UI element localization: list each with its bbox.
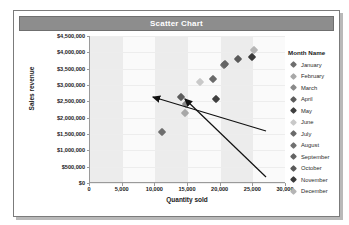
x-tick-label: 0	[87, 186, 90, 192]
y-axis-title: Sales revenue	[28, 54, 35, 124]
y-tick-label: $1,000,000	[57, 147, 85, 153]
legend-item-label: September	[301, 154, 329, 160]
legend-marker-icon	[290, 84, 297, 91]
legend-item-label: June	[301, 119, 314, 125]
legend-item-label: October	[301, 165, 322, 171]
legend: Month Name JanuaryFebruaryMarchAprilMayJ…	[288, 49, 340, 197]
legend-item-july[interactable]: July	[288, 128, 340, 140]
legend-item-label: January	[301, 62, 322, 68]
legend-item-label: February	[301, 73, 324, 79]
y-tick-mark	[87, 183, 90, 184]
x-tick-label: 25,000	[244, 186, 261, 192]
legend-item-september[interactable]: September	[288, 151, 340, 163]
y-tick-label: $4,500,000	[57, 33, 85, 39]
gridline-horizontal	[90, 36, 285, 37]
y-tick-mark	[87, 101, 90, 102]
legend-item-november[interactable]: November	[288, 174, 340, 186]
legend-marker-icon	[290, 107, 297, 114]
legend-marker-icon	[290, 119, 297, 126]
gridline-horizontal	[90, 69, 285, 70]
y-tick-mark	[87, 150, 90, 151]
y-tick-label: $2,500,000	[57, 98, 85, 104]
legend-item-june[interactable]: June	[288, 117, 340, 129]
legend-marker-icon	[290, 142, 297, 149]
plot-area	[89, 36, 285, 183]
legend-title: Month Name	[288, 49, 340, 56]
legend-marker-icon	[290, 188, 297, 195]
x-tick-label: 15,000	[178, 186, 195, 192]
y-tick-label: $4,000,000	[57, 49, 85, 55]
y-tick-label: $0	[79, 180, 85, 186]
y-tick-label: $500,000	[62, 164, 85, 170]
y-axis-labels: $0$500,000$1,000,000$1,500,000$2,000,000…	[35, 33, 87, 183]
legend-item-december[interactable]: December	[288, 186, 340, 198]
legend-marker-icon	[290, 130, 297, 137]
legend-item-may[interactable]: May	[288, 105, 340, 117]
y-tick-mark	[87, 69, 90, 70]
legend-item-october[interactable]: October	[288, 163, 340, 175]
y-tick-mark	[87, 85, 90, 86]
x-tick-label: 10,000	[146, 186, 163, 192]
legend-marker-icon	[290, 165, 297, 172]
screenshot-root: Scatter Chart Sales revenue $0$500,000$1…	[0, 0, 349, 225]
scatter-point[interactable]	[209, 75, 217, 83]
legend-items: JanuaryFebruaryMarchAprilMayJuneJulyAugu…	[288, 59, 340, 197]
gridline-horizontal	[90, 150, 285, 151]
legend-marker-icon	[290, 61, 297, 68]
y-tick-mark	[87, 167, 90, 168]
legend-marker-icon	[290, 73, 297, 80]
y-tick-mark	[87, 36, 90, 37]
y-tick-mark	[87, 118, 90, 119]
legend-item-february[interactable]: February	[288, 71, 340, 83]
x-axis-title: Quantity sold	[89, 196, 285, 203]
legend-item-april[interactable]: April	[288, 94, 340, 106]
legend-item-label: July	[301, 131, 311, 137]
y-tick-mark	[87, 134, 90, 135]
y-tick-label: $1,500,000	[57, 131, 85, 137]
x-tick-label: 5,000	[115, 186, 129, 192]
gridline-horizontal	[90, 167, 285, 168]
gridline-horizontal	[90, 85, 285, 86]
legend-marker-icon	[290, 176, 297, 183]
legend-item-label: May	[301, 108, 312, 114]
page-title: Scatter Chart	[150, 19, 203, 28]
gridline-horizontal	[90, 118, 285, 119]
y-tick-mark	[87, 52, 90, 53]
legend-item-august[interactable]: August	[288, 140, 340, 152]
legend-marker-icon	[290, 96, 297, 103]
legend-item-label: March	[301, 85, 317, 91]
legend-item-label: December	[301, 188, 328, 194]
legend-item-march[interactable]: March	[288, 82, 340, 94]
y-tick-label: $2,000,000	[57, 115, 85, 121]
legend-item-label: April	[301, 96, 313, 102]
legend-item-label: August	[301, 142, 319, 148]
plot-wrapper: Sales revenue $0$500,000$1,000,000$1,500…	[19, 33, 334, 213]
chart-title-bar: Scatter Chart	[19, 16, 334, 31]
x-tick-label: 20,000	[211, 186, 228, 192]
y-tick-label: $3,500,000	[57, 66, 85, 72]
legend-marker-icon	[290, 153, 297, 160]
y-tick-label: $3,000,000	[57, 82, 85, 88]
legend-item-label: November	[301, 177, 328, 183]
chart-panel: Scatter Chart Sales revenue $0$500,000$1…	[13, 10, 340, 217]
plot-band	[90, 36, 123, 182]
legend-item-january[interactable]: January	[288, 59, 340, 71]
gridline-horizontal	[90, 134, 285, 135]
x-axis-labels: 05,00010,00015,00020,00025,00030,000	[89, 186, 285, 196]
